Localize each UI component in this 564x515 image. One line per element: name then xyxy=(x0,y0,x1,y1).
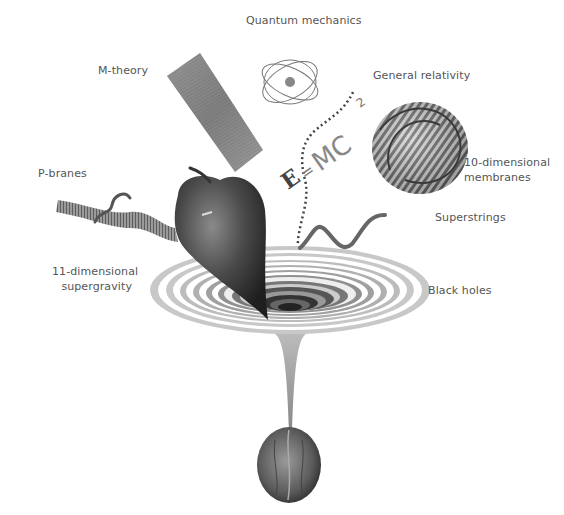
label-p-branes: P-branes xyxy=(38,166,87,181)
label-quantum-mechanics: Quantum mechanics xyxy=(246,13,362,28)
knotted-membrane xyxy=(372,102,468,194)
superstring xyxy=(300,215,385,248)
illustration: E = MC 2 xyxy=(0,0,564,515)
physics-theories-diagram: E = MC 2 xyxy=(0,0,564,515)
p-brane-ribbon xyxy=(56,194,178,242)
walnut xyxy=(257,427,321,503)
black-hole-funnel xyxy=(150,246,430,430)
m-theory-sheet xyxy=(167,53,263,172)
label-11-dimensional-supergravity: 11-dimensional supergravity xyxy=(52,264,132,294)
label-10-dimensional-membranes: 10-dimensional membranes xyxy=(464,155,550,185)
label-m-theory: M-theory xyxy=(98,63,148,78)
atom-icon xyxy=(256,53,324,111)
label-black-holes: Black holes xyxy=(428,283,492,298)
emc2-equation: E = MC 2 xyxy=(276,95,368,194)
label-superstrings: Superstrings xyxy=(435,210,506,225)
svg-text:2: 2 xyxy=(354,95,368,111)
label-general-relativity: General relativity xyxy=(373,68,470,83)
